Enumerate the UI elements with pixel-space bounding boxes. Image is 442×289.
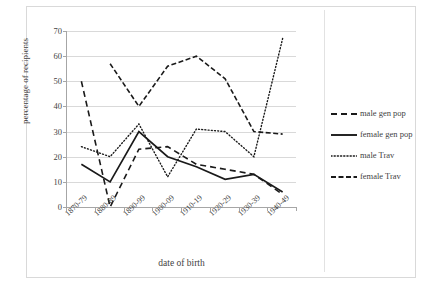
legend-label: male gen pop <box>360 109 406 118</box>
y-axis-ticks: 010203040506070 <box>0 0 66 207</box>
legend-item-female-trav[interactable]: female Trav <box>331 166 413 187</box>
y-tick-label-20: 20 <box>54 152 63 161</box>
y-tick-label-0: 0 <box>58 203 62 212</box>
x-tick-mark-8 <box>296 207 297 211</box>
series-line-female-gen-pop <box>81 132 282 192</box>
y-tick-label-30: 30 <box>54 127 63 136</box>
series-line-male-trav <box>81 39 282 177</box>
legend-divider <box>324 10 325 272</box>
legend-item-female-gen-pop[interactable]: female gen pop <box>331 124 413 145</box>
chart-figure: percentage of recipients 010203040506070… <box>0 0 442 289</box>
legend-swatch-solid <box>331 130 357 140</box>
y-tick-label-60: 60 <box>54 52 63 61</box>
legend-item-male-gen-pop[interactable]: male gen pop <box>331 103 413 124</box>
y-tick-label-70: 70 <box>54 27 63 36</box>
legend-swatch-dash-dot <box>331 172 357 182</box>
x-axis-label: date of birth <box>66 258 297 268</box>
legend-label: male Trav <box>360 151 394 160</box>
legend-swatch-dotted <box>331 151 357 161</box>
y-tick-label-10: 10 <box>54 178 63 187</box>
plot-area <box>66 31 296 207</box>
series-line-female-trav <box>110 56 283 134</box>
y-tick-label-40: 40 <box>54 102 63 111</box>
series-line-male-gen-pop <box>81 81 282 207</box>
legend-label: female gen pop <box>360 130 412 139</box>
legend-item-male-trav[interactable]: male Trav <box>331 145 413 166</box>
series-lines <box>67 31 298 207</box>
legend-label: female Trav <box>360 172 401 181</box>
legend-swatch-dashed <box>331 109 357 119</box>
chart-legend: male gen popfemale gen popmale Travfemal… <box>331 103 413 187</box>
y-tick-label-50: 50 <box>54 77 63 86</box>
